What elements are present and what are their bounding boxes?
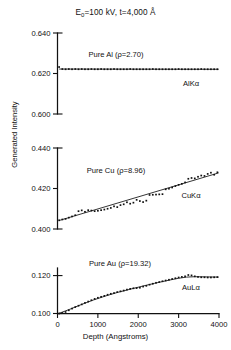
- data-point: [113, 68, 115, 70]
- data-point: [162, 193, 164, 195]
- data-point: [91, 299, 93, 301]
- data-point: [178, 184, 180, 186]
- panel-title: Pure Cu (ρ=8.96): [87, 166, 146, 175]
- data-point: [116, 291, 118, 293]
- data-point: [91, 68, 93, 70]
- data-point: [155, 194, 157, 196]
- data-point: [178, 68, 180, 70]
- data-point: [91, 210, 93, 212]
- data-point: [65, 218, 67, 220]
- data-point: [213, 276, 215, 278]
- data-point: [162, 68, 164, 70]
- data-point: [61, 219, 63, 221]
- data-point: [210, 172, 212, 174]
- data-point: [129, 68, 131, 70]
- data-point: [207, 68, 209, 70]
- data-point: [87, 301, 89, 303]
- data-point: [194, 178, 196, 180]
- series-label: AuLα: [182, 283, 201, 292]
- data-point: [175, 277, 177, 279]
- data-point: [123, 290, 125, 292]
- data-point: [107, 68, 109, 70]
- data-point: [200, 276, 202, 278]
- data-point: [165, 188, 167, 190]
- data-point: [155, 68, 157, 70]
- data-point: [126, 68, 128, 70]
- plot-canvas: 0.6000.6200.640Pure Al (ρ=2.70)AlKα0.400…: [0, 0, 231, 350]
- data-point: [187, 178, 189, 180]
- data-point: [110, 293, 112, 295]
- data-point: [200, 68, 202, 70]
- data-point: [217, 171, 219, 173]
- y-tick-label: 0.400: [31, 225, 50, 234]
- data-point: [181, 68, 183, 70]
- data-point: [68, 309, 70, 311]
- data-point: [74, 306, 76, 308]
- data-point: [197, 276, 199, 278]
- data-point: [68, 217, 70, 219]
- data-point: [184, 275, 186, 277]
- data-point: [68, 68, 70, 70]
- data-point: [194, 68, 196, 70]
- data-point: [145, 68, 147, 70]
- data-point: [87, 68, 89, 70]
- data-points: [58, 274, 218, 314]
- y-tick-label: 0.100: [31, 309, 50, 318]
- data-point: [84, 211, 86, 213]
- data-point: [210, 277, 212, 279]
- x-tick-label: 2000: [130, 320, 147, 329]
- data-point: [113, 292, 115, 294]
- data-point: [171, 187, 173, 189]
- y-tick-label: 0.620: [31, 69, 50, 78]
- data-point: [168, 279, 170, 281]
- data-point: [84, 68, 86, 70]
- data-point: [120, 290, 122, 292]
- data-point: [120, 68, 122, 70]
- data-point: [191, 177, 193, 179]
- series-label: AlKα: [183, 79, 200, 88]
- data-point: [123, 68, 125, 70]
- x-tick-label: 0: [55, 320, 59, 329]
- data-point: [58, 219, 60, 221]
- data-point: [71, 308, 73, 310]
- data-point: [136, 68, 138, 70]
- data-point: [191, 68, 193, 70]
- data-point: [120, 204, 122, 206]
- data-point: [58, 66, 60, 68]
- data-point: [165, 280, 167, 282]
- data-point: [158, 194, 160, 196]
- y-tick-label: 0.120: [31, 271, 50, 280]
- data-point: [187, 274, 189, 276]
- panel-middle: 0.4000.4200.440Pure Cu (ρ=8.96)CuKα: [31, 144, 218, 234]
- data-point: [110, 68, 112, 70]
- data-point: [139, 200, 141, 202]
- data-point: [74, 68, 76, 70]
- data-point: [204, 68, 206, 70]
- data-point: [58, 313, 60, 315]
- data-point: [103, 68, 105, 70]
- data-point: [149, 284, 151, 286]
- data-point: [217, 276, 219, 278]
- data-point: [78, 305, 80, 307]
- data-point: [81, 304, 83, 306]
- data-point: [136, 199, 138, 201]
- data-point: [139, 68, 141, 70]
- data-point: [78, 210, 80, 212]
- data-point: [81, 210, 83, 212]
- data-point: [145, 285, 147, 287]
- data-point: [103, 295, 105, 297]
- data-point: [197, 68, 199, 70]
- data-point: [175, 185, 177, 187]
- data-point: [126, 201, 128, 203]
- data-point: [97, 210, 99, 212]
- data-point: [94, 298, 96, 300]
- data-point: [126, 289, 128, 291]
- data-point: [100, 68, 102, 70]
- data-point: [162, 280, 164, 282]
- data-point: [129, 203, 131, 205]
- data-point: [107, 294, 109, 296]
- data-point: [116, 206, 118, 208]
- data-point: [133, 202, 135, 204]
- data-point: [194, 275, 196, 277]
- figure-root: E0=100 kV, t=4,000 Å Generated Intensity…: [0, 0, 231, 350]
